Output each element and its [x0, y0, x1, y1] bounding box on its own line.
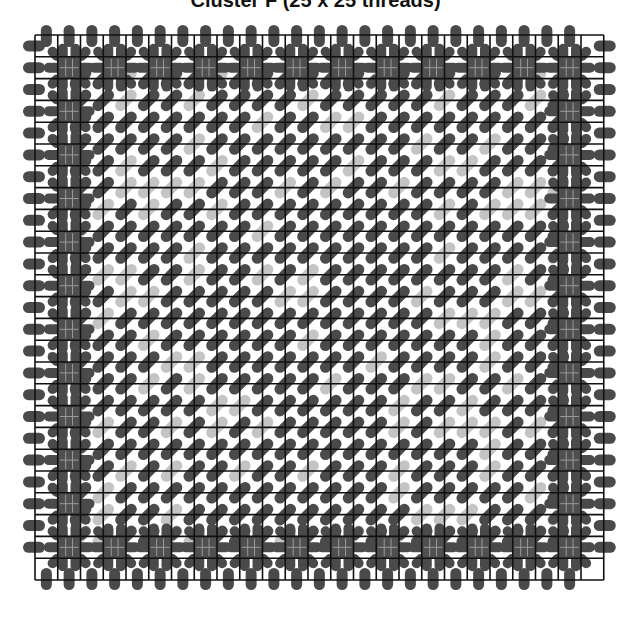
border-block: [44, 523, 95, 571]
edge-pill-right: [594, 40, 616, 51]
border-block: [44, 131, 95, 179]
edge-pill-right: [594, 215, 616, 226]
edge-pill-bottom: [428, 568, 439, 590]
border-block: [89, 523, 140, 571]
border-block: [544, 305, 595, 353]
edge-pill-top: [177, 25, 188, 47]
edge-pill-right: [594, 302, 616, 313]
edge-pill-right: [594, 455, 616, 466]
edge-pill-top: [246, 25, 257, 47]
edge-pill-left: [23, 215, 45, 226]
edge-pill-left: [23, 280, 45, 291]
edge-pill-top: [268, 25, 279, 47]
border-block: [544, 218, 595, 266]
border-block: [44, 393, 95, 441]
edge-pill-top: [450, 25, 461, 47]
edge-pill-right: [594, 84, 616, 95]
edge-pill-right: [594, 149, 616, 160]
border-block: [180, 523, 231, 571]
edge-pill-bottom: [473, 568, 484, 590]
edge-pill-left: [23, 346, 45, 357]
border-block: [271, 44, 322, 92]
edge-pill-left: [23, 411, 45, 422]
border-block: [453, 523, 504, 571]
border-block: [408, 523, 459, 571]
edge-pill-bottom: [519, 568, 530, 590]
edge-pill-left: [23, 193, 45, 204]
edge-pill-right: [594, 193, 616, 204]
edge-pill-left: [23, 237, 45, 248]
edge-pill-bottom: [64, 568, 75, 590]
border-block: [317, 523, 368, 571]
border-block: [544, 44, 595, 92]
edge-pill-bottom: [541, 568, 552, 590]
border-block: [44, 480, 95, 528]
edge-pill-top: [86, 25, 97, 47]
border-block: [271, 523, 322, 571]
border-block: [499, 523, 550, 571]
edge-pill-left: [23, 84, 45, 95]
edge-pill-right: [594, 367, 616, 378]
edge-pill-top: [382, 25, 393, 47]
edge-pill-left: [23, 324, 45, 335]
edge-pill-bottom: [382, 568, 393, 590]
edge-pill-right: [594, 324, 616, 335]
edge-pill-bottom: [496, 568, 507, 590]
edge-pill-bottom: [359, 568, 370, 590]
edge-pill-left: [23, 171, 45, 182]
border-block: [226, 523, 277, 571]
border-block: [544, 175, 595, 223]
edge-pill-right: [594, 106, 616, 117]
border-block: [44, 262, 95, 310]
edge-pill-left: [23, 258, 45, 269]
border-block: [226, 44, 277, 92]
edge-pill-top: [291, 25, 302, 47]
edge-pill-right: [594, 128, 616, 139]
edge-pill-bottom: [132, 568, 143, 590]
edge-pill-top: [519, 25, 530, 47]
edge-pill-bottom: [246, 568, 257, 590]
border-block: [180, 44, 231, 92]
edge-pill-bottom: [268, 568, 279, 590]
border-block: [544, 87, 595, 135]
edge-pill-right: [594, 498, 616, 509]
edge-pill-top: [200, 25, 211, 47]
border-block: [44, 305, 95, 353]
edge-pill-bottom: [314, 568, 325, 590]
edge-pill-top: [496, 25, 507, 47]
edge-pill-right: [594, 476, 616, 487]
border-block: [544, 262, 595, 310]
border-block: [453, 44, 504, 92]
edge-pill-left: [23, 498, 45, 509]
edge-pill-right: [594, 389, 616, 400]
border-block: [544, 523, 595, 571]
edge-pill-top: [541, 25, 552, 47]
edge-pill-top: [64, 25, 75, 47]
edge-pill-left: [23, 433, 45, 444]
edge-pill-top: [132, 25, 143, 47]
border-block: [544, 131, 595, 179]
edge-pill-top: [109, 25, 120, 47]
edge-pill-left: [23, 520, 45, 531]
border-block: [544, 436, 595, 484]
edge-pill-top: [564, 25, 575, 47]
edge-pill-right: [594, 171, 616, 182]
interior-pills: [67, 66, 571, 550]
edge-pill-bottom: [109, 568, 120, 590]
edge-pill-left: [23, 40, 45, 51]
border-block: [362, 523, 413, 571]
edge-pill-bottom: [405, 568, 416, 590]
edge-pill-left: [23, 62, 45, 73]
edge-pill-right: [594, 542, 616, 553]
edge-pill-right: [594, 62, 616, 73]
edge-pill-left: [23, 389, 45, 400]
edge-pill-right: [594, 520, 616, 531]
border-block: [544, 393, 595, 441]
border-block: [317, 44, 368, 92]
edge-pill-bottom: [177, 568, 188, 590]
border-block: [499, 44, 550, 92]
border-block: [544, 349, 595, 397]
edge-pill-top: [155, 25, 166, 47]
edge-pill-bottom: [450, 568, 461, 590]
edge-pill-left: [23, 367, 45, 378]
